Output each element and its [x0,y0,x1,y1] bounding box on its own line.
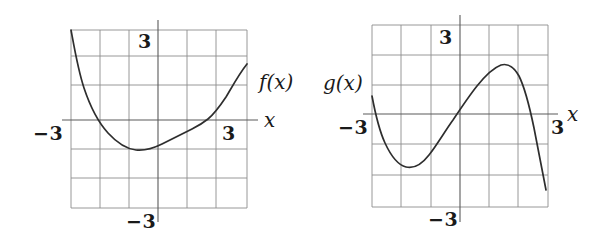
curve-f [71,30,247,150]
x-tick-label-3-g: 3 [551,118,565,137]
function-label-f: f(x) [259,72,293,92]
y-tick-label-neg3-g: −3 [428,210,458,229]
y-tick-label-neg3-f: −3 [126,212,156,231]
graph-svg-f [0,0,305,241]
y-tick-label-3-g: 3 [439,28,453,47]
graph-panel-f: 3 −3 3 −3 f(x) x [0,0,305,241]
x-axis-label-g: x [567,104,578,124]
two-graph-figure: 3 −3 3 −3 f(x) x [0,0,611,241]
x-tick-label-neg3-g: −3 [338,118,368,137]
x-tick-label-3-f: 3 [222,124,236,143]
graph-panel-g: 3 −3 3 −3 g(x) x [305,0,611,241]
x-axis-label-f: x [264,110,275,130]
function-label-g: g(x) [323,73,363,93]
y-tick-label-3-f: 3 [138,32,152,51]
curve-g [372,64,546,190]
x-tick-label-neg3-f: −3 [33,124,63,143]
